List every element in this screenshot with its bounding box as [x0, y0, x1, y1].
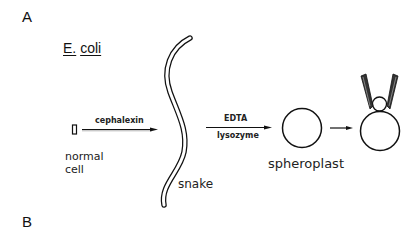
snake-label: snake	[178, 178, 213, 191]
cephalexin-label: cephalexin	[95, 116, 144, 125]
small-arrow-icon	[330, 126, 353, 130]
spheroplast-label: spheroplast	[268, 156, 344, 171]
normal-cell-label: normal cell	[65, 150, 104, 176]
diagram-graphics	[0, 0, 416, 238]
diagram: A E. coli	[0, 0, 416, 238]
edta-lysozyme-arrow-icon	[206, 126, 272, 130]
lysozyme-label: lysozyme	[217, 131, 259, 140]
edta-label: EDTA	[224, 114, 247, 123]
normal-cell-label-line2: cell	[65, 163, 104, 176]
normal-cell-label-line1: normal	[65, 150, 104, 163]
cephalexin-arrow-icon	[82, 128, 158, 132]
panel-label-b: B	[22, 213, 32, 230]
spheroplast-icon	[283, 109, 322, 148]
normal-cell-icon	[73, 125, 77, 134]
patch-clamp-icon	[361, 74, 400, 151]
